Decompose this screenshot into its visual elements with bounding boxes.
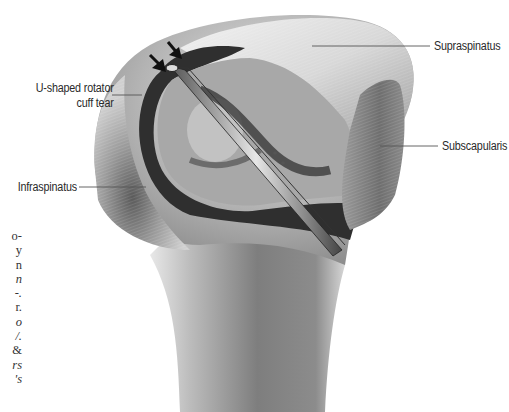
figure-illustration (0, 0, 509, 412)
label-tear: U-shaped rotator cuff tear (36, 81, 114, 111)
caption-fragment: o- y n n -. r. o /. & rs 's (0, 229, 22, 386)
caption-line: rs (0, 358, 22, 372)
label-supraspinatus: Supraspinatus (434, 39, 501, 54)
caption-line: & (0, 343, 22, 357)
caption-line: 's (0, 372, 22, 386)
shoulder-anatomy-illustration (0, 0, 509, 412)
caption-line: n (0, 272, 22, 286)
caption-line: y (0, 243, 22, 257)
caption-line: r. (0, 300, 22, 314)
caption-line: n (0, 258, 22, 272)
caption-line: -. (0, 286, 22, 300)
label-tear-line1: U-shaped rotator (36, 81, 114, 96)
caption-line: o (0, 315, 22, 329)
label-subscapularis: Subscapularis (442, 139, 507, 154)
label-infraspinatus: Infraspinatus (18, 180, 77, 195)
label-tear-line2: cuff tear (36, 96, 114, 111)
caption-line: o- (0, 229, 22, 243)
caption-line: /. (0, 329, 22, 343)
